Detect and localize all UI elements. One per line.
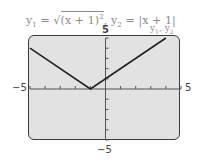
graph-line [30, 38, 166, 89]
plot-area [0, 0, 198, 160]
x-max-label: 5 [185, 82, 191, 93]
x-min-label: −5 [12, 82, 27, 93]
y-min-label: −5 [97, 144, 112, 155]
y-max-label: 5 [102, 24, 109, 35]
axes [30, 38, 181, 140]
